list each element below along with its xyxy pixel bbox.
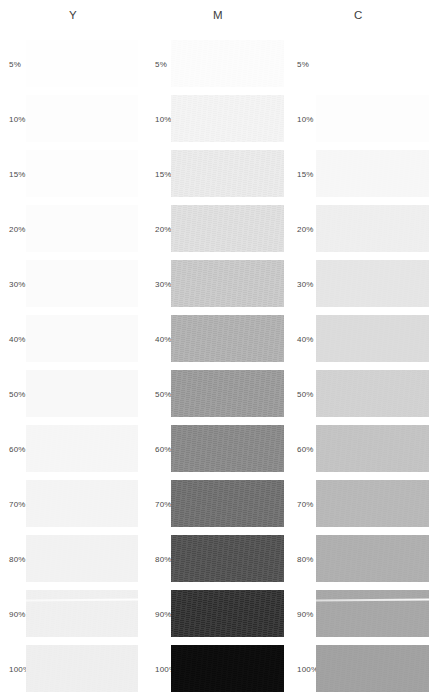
- tint-step-row: 90%: [0, 590, 150, 637]
- tint-patch: [26, 590, 138, 637]
- tint-patch: [26, 370, 138, 417]
- tint-step-row: 50%: [145, 370, 287, 417]
- halftone-screen-texture: [316, 480, 429, 527]
- halftone-screen-texture: [171, 260, 284, 307]
- halftone-screen-texture: [171, 95, 284, 142]
- tint-patch: [26, 260, 138, 307]
- tint-step-row: 80%: [288, 535, 429, 582]
- tint-patch: [316, 480, 429, 527]
- tint-step-row: 100%: [145, 645, 287, 692]
- tint-patch: [26, 645, 138, 692]
- tint-step-row: 70%: [0, 480, 150, 527]
- tint-step-row: 10%: [145, 95, 287, 142]
- tint-step-row: 70%: [288, 480, 429, 527]
- tint-patch: [171, 425, 284, 472]
- halftone-screen-texture: [316, 645, 429, 692]
- tint-step-row: 5%: [0, 40, 150, 87]
- tint-patch: [316, 260, 429, 307]
- halftone-screen-texture: [316, 590, 429, 637]
- tint-step-row: 40%: [288, 315, 429, 362]
- column-header-m: M: [213, 9, 223, 21]
- tint-step-row: 15%: [145, 150, 287, 197]
- tint-patch: [171, 645, 284, 692]
- tint-step-row: 100%: [288, 645, 429, 692]
- tint-patch: [316, 95, 429, 142]
- tint-step-row: 50%: [288, 370, 429, 417]
- tint-patch: [316, 535, 429, 582]
- tint-patch: [316, 590, 429, 637]
- column-header-c: C: [354, 9, 363, 21]
- halftone-screen-texture: [316, 150, 429, 197]
- tint-step-row: 20%: [288, 205, 429, 252]
- tint-ramp-chart-sheet: Y 5%10%15%20%30%40%50%60%70%80%90%100% M…: [0, 0, 429, 699]
- halftone-screen-texture: [171, 645, 284, 692]
- halftone-screen-texture: [26, 480, 138, 527]
- column-m: M 5%10%15%20%30%40%50%60%70%80%90%100%: [145, 0, 287, 699]
- halftone-screen-texture: [171, 150, 284, 197]
- tint-step-row: 15%: [288, 150, 429, 197]
- halftone-screen-texture: [316, 535, 429, 582]
- tint-patch: [171, 40, 284, 87]
- tint-step-row: 10%: [0, 95, 150, 142]
- tint-patch: [26, 480, 138, 527]
- tint-patch: [26, 205, 138, 252]
- halftone-screen-texture: [171, 590, 284, 637]
- halftone-screen-texture: [171, 535, 284, 582]
- tint-patch: [171, 150, 284, 197]
- tint-patch: [26, 425, 138, 472]
- tint-patch: [171, 590, 284, 637]
- tint-step-row: 5%: [145, 40, 287, 87]
- halftone-screen-texture: [171, 480, 284, 527]
- halftone-screen-texture: [26, 645, 138, 692]
- halftone-screen-texture: [316, 260, 429, 307]
- tint-patch: [316, 40, 429, 87]
- tint-patch: [171, 315, 284, 362]
- tint-step-row: 5%: [288, 40, 429, 87]
- tint-patch: [171, 260, 284, 307]
- tint-step-row: 60%: [0, 425, 150, 472]
- tint-patch: [316, 205, 429, 252]
- tint-patch: [316, 150, 429, 197]
- column-header-y: Y: [69, 9, 77, 21]
- tint-patch: [26, 150, 138, 197]
- tint-step-row: 60%: [288, 425, 429, 472]
- tint-patch: [171, 480, 284, 527]
- halftone-screen-texture: [171, 425, 284, 472]
- halftone-screen-texture: [316, 370, 429, 417]
- halftone-screen-texture: [171, 315, 284, 362]
- halftone-screen-texture: [26, 590, 138, 637]
- tint-patch: [316, 645, 429, 692]
- tint-step-row: 20%: [0, 205, 150, 252]
- tint-patch: [26, 535, 138, 582]
- halftone-screen-texture: [171, 205, 284, 252]
- tint-patch: [171, 370, 284, 417]
- tint-step-row: 30%: [0, 260, 150, 307]
- tint-step-row: 50%: [0, 370, 150, 417]
- tint-step-row: 40%: [0, 315, 150, 362]
- tint-step-row: 90%: [145, 590, 287, 637]
- tint-step-row: 20%: [145, 205, 287, 252]
- halftone-screen-texture: [171, 40, 284, 87]
- tint-step-row: 70%: [145, 480, 287, 527]
- tint-patch: [26, 95, 138, 142]
- halftone-screen-texture: [171, 370, 284, 417]
- tint-patch: [316, 370, 429, 417]
- tint-step-row: 40%: [145, 315, 287, 362]
- column-y: Y 5%10%15%20%30%40%50%60%70%80%90%100%: [0, 0, 150, 699]
- tint-step-row: 90%: [288, 590, 429, 637]
- halftone-screen-texture: [316, 425, 429, 472]
- tint-step-row: 30%: [288, 260, 429, 307]
- halftone-screen-texture: [316, 205, 429, 252]
- tint-step-row: 100%: [0, 645, 150, 692]
- tint-patch: [316, 425, 429, 472]
- column-c: C 5%10%15%20%30%40%50%60%70%80%90%100%: [288, 0, 429, 699]
- tint-patch: [171, 205, 284, 252]
- tint-patch: [26, 40, 138, 87]
- tint-patch: [171, 95, 284, 142]
- tint-patch: [171, 535, 284, 582]
- tint-step-row: 80%: [0, 535, 150, 582]
- tint-patch: [316, 315, 429, 362]
- tint-patch: [26, 315, 138, 362]
- halftone-screen-texture: [26, 535, 138, 582]
- tint-step-row: 80%: [145, 535, 287, 582]
